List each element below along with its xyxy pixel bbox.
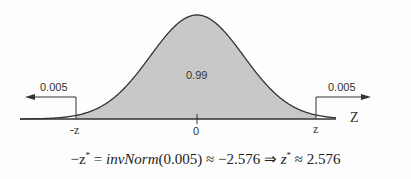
shaded-area [76, 15, 316, 119]
left-arrowhead-icon [25, 94, 35, 100]
left-tail-bracket [34, 97, 76, 119]
right-arrowhead-icon [361, 94, 371, 100]
normal-distribution-diagram: 0.99 0.005 0.005 -z 0 z Z −z* = invNorm(… [0, 0, 411, 179]
center-area-label: 0.99 [186, 70, 207, 81]
formula-arg: (0.005) [159, 151, 203, 167]
right-tail-label: 0.005 [328, 82, 356, 93]
left-tail-label: 0.005 [40, 82, 68, 93]
formula-approx1: ≈ −2.576 ⇒ [202, 151, 280, 167]
formula-lhs: −z [70, 151, 85, 167]
formula: −z* = invNorm(0.005) ≈ −2.576 ⇒ z* ≈ 2.5… [0, 150, 411, 168]
axis-label-z: Z [350, 111, 359, 125]
formula-func: invNorm [106, 151, 159, 167]
formula-eq: = [90, 151, 106, 167]
tick-label-z: z [313, 123, 318, 135]
tick-label-neg-z: -z [70, 124, 79, 136]
formula-approx2: ≈ 2.576 [291, 151, 340, 167]
tick-label-zero: 0 [193, 126, 199, 137]
